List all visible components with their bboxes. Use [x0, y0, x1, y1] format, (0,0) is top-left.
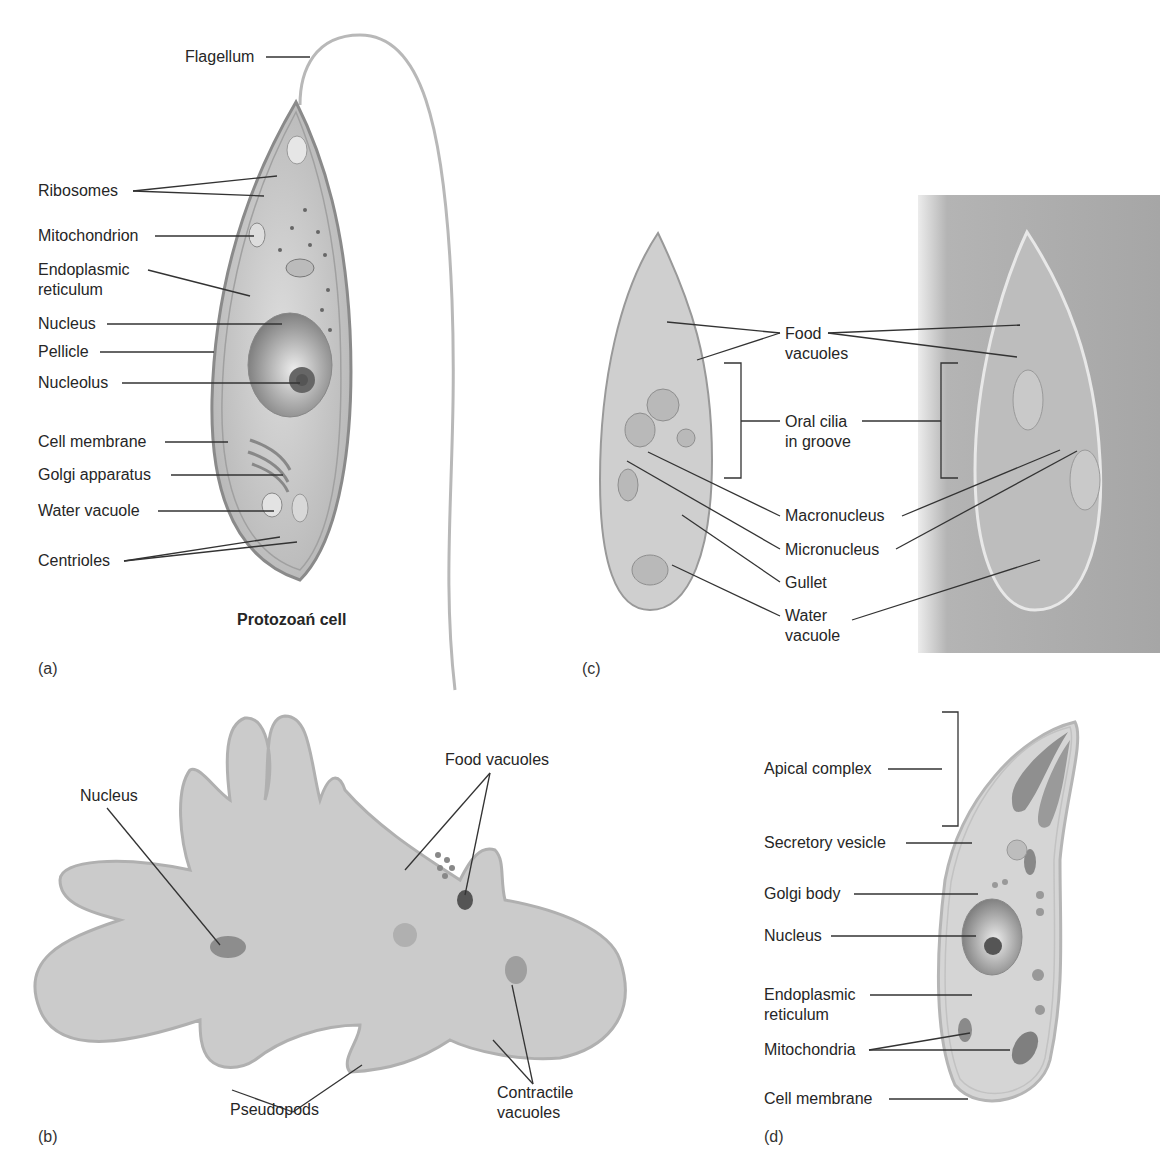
label-micronucleus: Micronucleus [785, 540, 879, 560]
label-golgi-apparatus: Golgi apparatus [38, 465, 151, 485]
label-er-d-line1: Endoplasmic [764, 985, 856, 1005]
label-food-line2: vacuoles [785, 344, 848, 364]
label-nucleolus: Nucleolus [38, 373, 108, 393]
label-centrioles: Centrioles [38, 551, 110, 571]
label-cell-membrane-a: Cell membrane [38, 432, 146, 452]
label-endoplasmic-reticulum-a: Endoplasmic reticulum [38, 260, 130, 300]
label-secretory-vesicle: Secretory vesicle [764, 833, 886, 853]
label-water-line1: Water [785, 606, 840, 626]
label-food-vacuoles-c: Food vacuoles [785, 324, 848, 364]
label-mitochondrion: Mitochondrion [38, 226, 139, 246]
label-food-line1: Food [785, 324, 848, 344]
label-oral-line2: in groove [785, 432, 851, 452]
caption-protozoan-cell: Protozoań cell [237, 610, 346, 630]
label-er-line2: reticulum [38, 280, 130, 300]
label-contractile-line1: Contractile [497, 1083, 573, 1103]
label-water-line2: vacuole [785, 626, 840, 646]
label-endoplasmic-reticulum-d: Endoplasmic reticulum [764, 985, 856, 1025]
label-er-d-line2: reticulum [764, 1005, 856, 1025]
label-apical-complex: Apical complex [764, 759, 872, 779]
label-nucleus-b: Nucleus [80, 786, 138, 806]
label-contractile-vacuoles: Contractile vacuoles [497, 1083, 573, 1123]
label-macronucleus: Macronucleus [785, 506, 885, 526]
panel-label-c: (c) [582, 660, 601, 678]
label-gullet: Gullet [785, 573, 827, 593]
label-ribosomes: Ribosomes [38, 181, 118, 201]
label-pseudopods: Pseudopods [230, 1100, 319, 1120]
apicomplexan-illustration [938, 722, 1077, 1101]
label-flagellum: Flagellum [185, 47, 254, 67]
label-contractile-line2: vacuoles [497, 1103, 573, 1123]
paramecium-illustration [600, 233, 712, 610]
label-food-vacuoles-b: Food vacuoles [445, 750, 549, 770]
panel-label-d: (d) [764, 1128, 784, 1146]
label-nucleus-a: Nucleus [38, 314, 96, 334]
protozoan-cell-illustration [100, 35, 455, 690]
label-nucleus-d: Nucleus [764, 926, 822, 946]
label-mitochondria: Mitochondria [764, 1040, 856, 1060]
panel-label-b: (b) [38, 1128, 58, 1146]
label-water-vacuole-a: Water vacuole [38, 501, 140, 521]
panel-label-a: (a) [38, 660, 58, 678]
label-golgi-body: Golgi body [764, 884, 841, 904]
label-er-line1: Endoplasmic [38, 260, 130, 280]
label-pellicle: Pellicle [38, 342, 89, 362]
label-oral-cilia: Oral cilia in groove [785, 412, 851, 452]
label-oral-line1: Oral cilia [785, 412, 851, 432]
label-water-vacuole-c: Water vacuole [785, 606, 840, 646]
label-cell-membrane-d: Cell membrane [764, 1089, 872, 1109]
figure-artwork [0, 0, 1167, 1167]
